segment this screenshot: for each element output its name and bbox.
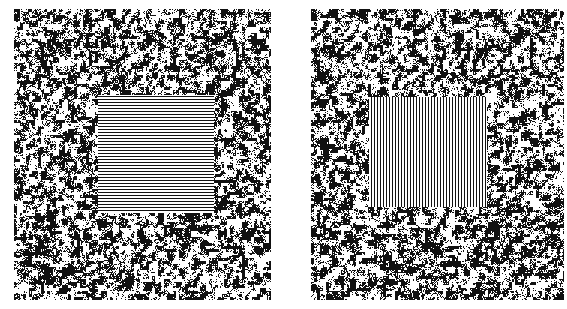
- right-noise-panel: [311, 9, 564, 300]
- right-noise-canvas: [311, 9, 564, 300]
- left-noise-panel: [14, 9, 271, 300]
- left-noise-canvas: [14, 9, 271, 300]
